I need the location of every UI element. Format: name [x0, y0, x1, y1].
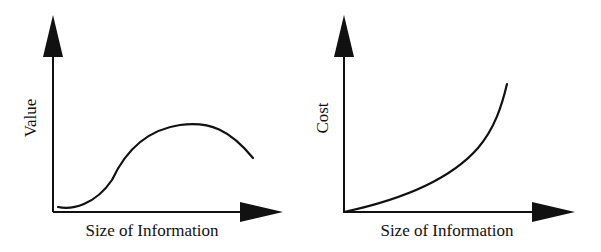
- cost-x-axis-arrow-icon: [532, 202, 575, 222]
- value-y-label: Value: [21, 99, 40, 138]
- value-x-axis-arrow-icon: [240, 202, 283, 222]
- diagram-canvas: Value Size of Information Cost Size of I…: [0, 0, 601, 252]
- cost-x-label: Size of Information: [380, 221, 514, 240]
- value-y-axis-arrow-icon: [43, 15, 63, 57]
- cost-y-label: Cost: [313, 102, 332, 133]
- value-curve: [58, 124, 253, 208]
- value-chart: Value Size of Information: [21, 15, 283, 240]
- cost-curve: [344, 84, 507, 212]
- value-x-label: Size of Information: [85, 221, 219, 240]
- cost-y-axis-arrow-icon: [334, 15, 354, 57]
- cost-chart: Cost Size of Information: [313, 15, 575, 240]
